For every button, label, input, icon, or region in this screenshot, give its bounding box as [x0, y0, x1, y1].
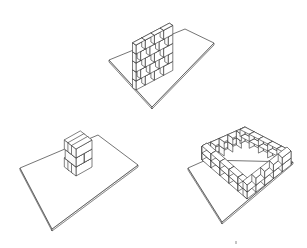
illustration-canvas — [0, 0, 307, 248]
figure-pier — [20, 131, 138, 231]
figure-enclosure — [188, 127, 293, 224]
figure-wall — [109, 23, 214, 109]
brick-pier — [64, 131, 92, 176]
